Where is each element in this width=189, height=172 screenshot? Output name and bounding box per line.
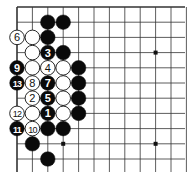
stone-circle bbox=[25, 106, 40, 121]
stone-circle bbox=[41, 15, 56, 30]
star-point-icon bbox=[154, 142, 158, 146]
black-stone bbox=[41, 30, 56, 45]
white-stone: 6 bbox=[10, 30, 25, 45]
move-number-label: 12 bbox=[13, 109, 22, 119]
stone-circle bbox=[56, 45, 71, 60]
black-stone bbox=[71, 106, 86, 121]
stone-circle bbox=[71, 76, 86, 91]
black-stone bbox=[56, 121, 71, 136]
black-stone: 9 bbox=[10, 61, 25, 76]
move-number-label: 4 bbox=[45, 62, 51, 74]
white-stone bbox=[56, 76, 71, 91]
stone-circle bbox=[41, 121, 56, 136]
stone-circle bbox=[41, 152, 56, 167]
stone-circle bbox=[71, 61, 86, 76]
move-number-label: 11 bbox=[13, 125, 22, 135]
black-stone: 11 bbox=[10, 121, 25, 136]
white-stone bbox=[25, 45, 40, 60]
move-number-label: 5 bbox=[45, 92, 51, 104]
black-stone bbox=[56, 45, 71, 60]
white-stone bbox=[56, 106, 71, 121]
white-stone bbox=[25, 61, 40, 76]
star-point-icon bbox=[154, 51, 158, 55]
move-number-label: 9 bbox=[14, 62, 20, 74]
white-stone bbox=[56, 61, 71, 76]
move-number-label: 8 bbox=[29, 77, 35, 89]
stone-circle bbox=[25, 137, 40, 152]
white-stone bbox=[25, 30, 40, 45]
stone-circle bbox=[41, 30, 56, 45]
move-number-label: 10 bbox=[28, 125, 37, 135]
stone-circle bbox=[56, 76, 71, 91]
black-stone bbox=[25, 137, 40, 152]
black-stone bbox=[71, 76, 86, 91]
star-point-icon bbox=[61, 142, 65, 146]
white-stone: 12 bbox=[10, 106, 25, 121]
move-number-label: 7 bbox=[45, 77, 51, 89]
black-stone: 3 bbox=[41, 45, 56, 60]
white-stone bbox=[56, 91, 71, 106]
stone-circle bbox=[56, 121, 71, 136]
black-stone: 13 bbox=[10, 76, 25, 91]
black-stone: 5 bbox=[41, 91, 56, 106]
stone-circle bbox=[71, 91, 86, 106]
black-stone bbox=[71, 91, 86, 106]
stone-circle bbox=[56, 91, 71, 106]
stone-circle bbox=[25, 45, 40, 60]
move-number-label: 3 bbox=[45, 47, 51, 59]
move-number-label: 1 bbox=[45, 107, 51, 119]
black-stone bbox=[41, 121, 56, 136]
move-number-label: 2 bbox=[29, 92, 35, 104]
move-number-label: 6 bbox=[14, 31, 20, 43]
stone-circle bbox=[56, 15, 71, 30]
white-stone: 10 bbox=[25, 121, 40, 136]
white-stone bbox=[25, 106, 40, 121]
stone-circle bbox=[25, 61, 40, 76]
stone-circle bbox=[56, 61, 71, 76]
move-number-label: 13 bbox=[13, 79, 22, 89]
white-stone: 4 bbox=[41, 61, 56, 76]
stone-circle bbox=[71, 106, 86, 121]
white-stone: 8 bbox=[25, 76, 40, 91]
black-stone bbox=[41, 152, 56, 167]
black-stone bbox=[41, 15, 56, 30]
black-stone bbox=[56, 15, 71, 30]
black-stone: 7 bbox=[41, 76, 56, 91]
black-stone: 1 bbox=[41, 106, 56, 121]
black-stone bbox=[71, 61, 86, 76]
white-stone: 2 bbox=[25, 91, 40, 106]
stone-circle bbox=[25, 30, 40, 45]
go-board: 63941387251211110 bbox=[0, 0, 189, 172]
stone-circle bbox=[56, 106, 71, 121]
grid-lines bbox=[17, 7, 186, 172]
